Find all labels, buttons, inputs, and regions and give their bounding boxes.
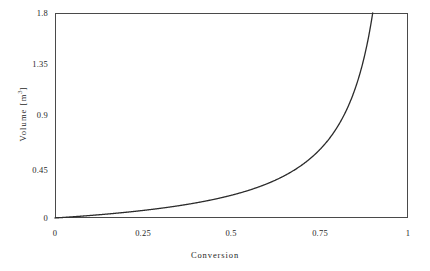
y-axis-title: Volume [m3] (16, 54, 28, 174)
x-tick-label-0.75: 0.75 (302, 228, 338, 238)
volume-conversion-curve (55, 13, 408, 218)
curve-path (55, 13, 373, 218)
x-tick-label-0: 0 (37, 228, 73, 238)
x-axis-title: Conversion (0, 250, 430, 260)
y-axis-title-exponent: 3 (16, 90, 23, 93)
chart-figure: 1.8 1.35 0.9 0.45 0 0 0.25 0.5 0.75 1 Co… (0, 0, 430, 271)
y-axis-title-close: ] (18, 86, 28, 90)
x-tick-label-0.5: 0.5 (213, 228, 249, 238)
x-tick-label-1: 1 (390, 228, 426, 238)
y-tick-label-0: 0 (18, 213, 48, 223)
y-tick-label-1.8: 1.8 (18, 8, 48, 18)
x-tick-label-0.25: 0.25 (125, 228, 161, 238)
y-axis-title-base: Volume [m (18, 94, 28, 142)
